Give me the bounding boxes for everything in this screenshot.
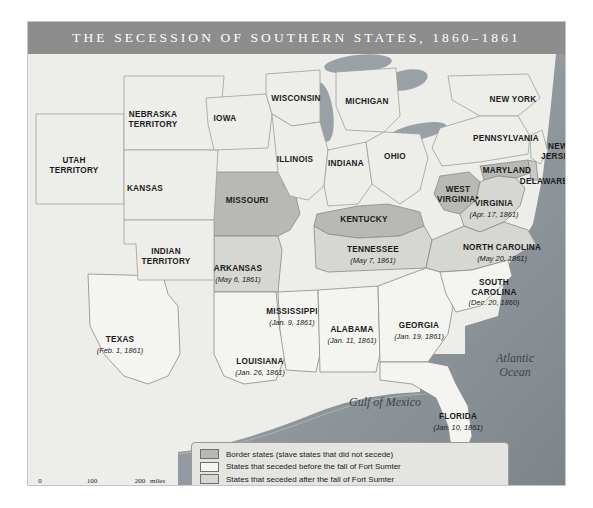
region-label-indian-territory: INDIANTERRITORY [141,247,190,266]
region-label-kansas: KANSAS [127,184,163,194]
region-label-illinois: ILLINOIS [277,155,314,165]
region-label-texas: TEXAS (Feb. 1, 1861) [97,335,143,356]
region-label-tennessee: TENNESSEE (May 7, 1861) [347,245,399,266]
water-label-atlantic-ocean: Atlantic Ocean [496,351,534,379]
map-legend: Border states (slave states that did not… [191,442,509,485]
region-label-louisiana: LOUISIANA (Jan. 26, 1861) [235,357,285,378]
page-title: THE SECESSION OF SOUTHERN STATES, 1860–1… [72,30,521,46]
region-label-florida: FLORIDA (Jan. 10, 1861) [433,412,483,433]
legend-item-seceded-before: States that seceded before the fall of F… [200,462,500,472]
scale-miles-tick-200: 200 [135,477,146,485]
region-label-wisconsin: WISCONSIN [271,94,321,104]
region-label-nebraska-territory: NEBRASKATERRITORY [128,110,177,129]
legend-swatch-seceded-before [200,462,219,472]
map-page: THE SECESSION OF SOUTHERN STATES, 1860–1… [0,0,593,508]
region-label-mississippi: MISSISSIPPI (Jan. 9, 1861) [266,307,317,328]
region-label-south-carolina: SOUTHCAROLINA (Dec. 20, 1860) [469,278,520,307]
legend-swatch-border-states [200,449,219,459]
legend-swatch-seceded-after [200,474,219,484]
region-label-ohio: OHIO [384,152,406,162]
map-scale: 0 100 200 miles 0 100 200 ki [36,477,186,485]
map-labels: Atlantic Ocean Gulf of Mexico UTAHTERRIT… [28,54,565,485]
region-label-georgia: GEORGIA (Jan. 19, 1861) [394,321,444,342]
scale-miles-tick-0: 0 [38,477,42,485]
region-label-iowa: IOWA [214,114,237,124]
region-label-new-york: NEW YORK [490,95,537,105]
water-label-gulf-of-mexico: Gulf of Mexico [349,395,421,409]
region-label-pennsylvania: PENNSYLVANIA [473,134,539,144]
region-label-new-jersey: NEWJERSEY [541,142,565,161]
scale-miles-labels: 0 100 200 miles [36,477,186,485]
map-body: Atlantic Ocean Gulf of Mexico UTAHTERRIT… [28,54,565,485]
legend-item-seceded-after: States that seceded after the fall of Fo… [200,474,500,484]
legend-label-seceded-before: States that seceded before the fall of F… [226,462,401,471]
legend-item-border-states: Border states (slave states that did not… [200,449,500,459]
region-label-missouri: MISSOURI [226,196,269,206]
region-label-north-carolina: NORTH CAROLINA (May 20, 1861) [463,243,541,264]
scale-miles-unit: miles [150,477,165,485]
legend-label-seceded-after: States that seceded after the fall of Fo… [226,475,394,484]
region-label-delaware: DELAWARE [520,177,565,187]
map-frame: THE SECESSION OF SOUTHERN STATES, 1860–1… [28,22,565,485]
scale-miles-tick-100: 100 [87,477,98,485]
region-label-utah-territory: UTAHTERRITORY [49,156,98,175]
map-title-bar: THE SECESSION OF SOUTHERN STATES, 1860–1… [28,22,565,54]
region-label-arkansas: ARKANSAS (May 6, 1861) [214,264,262,285]
region-label-alabama: ALABAMA (Jan. 11, 1861) [327,325,376,346]
region-label-indiana: INDIANA [328,159,364,169]
region-label-kentucky: KENTUCKY [340,215,388,225]
region-label-michigan: MICHIGAN [345,97,388,107]
region-label-virginia: VIRGINIA (Apr. 17, 1861) [469,199,518,220]
legend-label-border-states: Border states (slave states that did not… [226,450,393,459]
region-label-maryland: MARYLAND [483,166,532,176]
